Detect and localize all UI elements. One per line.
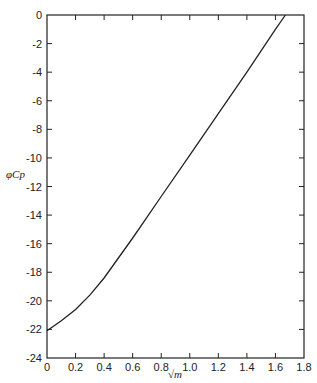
y-tick-label: -6 (32, 95, 42, 107)
x-tick-label: 0 (44, 361, 50, 373)
x-tick-label: 0.6 (125, 361, 140, 373)
y-axis-label: φCp (6, 168, 25, 180)
x-tick-label: 1.0 (182, 361, 197, 373)
x-tick-label: 0.8 (154, 361, 169, 373)
x-axis-ticks: 00.20.40.60.81.01.21.41.61.8 (44, 15, 312, 373)
y-tick-label: 0 (36, 9, 42, 21)
x-axis-label: √m (168, 368, 182, 380)
x-tick-label: 1.2 (211, 361, 226, 373)
y-tick-label: -18 (26, 266, 42, 278)
y-tick-label: -16 (26, 238, 42, 250)
x-tick-label: 1.6 (268, 361, 283, 373)
y-tick-label: -2 (32, 38, 42, 50)
x-tick-label: 0.2 (68, 361, 83, 373)
x-tick-label: 0.4 (96, 361, 111, 373)
y-tick-label: -24 (26, 352, 42, 364)
x-tick-label: 1.8 (296, 361, 311, 373)
y-tick-label: -22 (26, 323, 42, 335)
x-tick-label: 1.4 (239, 361, 254, 373)
y-axis-ticks: 0-2-4-6-8-10-12-14-16-18-20-22-24 (26, 9, 304, 364)
y-tick-label: -8 (32, 123, 42, 135)
y-tick-label: -20 (26, 295, 42, 307)
data-line (47, 15, 285, 331)
y-tick-label: -4 (32, 66, 42, 78)
y-tick-label: -14 (26, 209, 42, 221)
plot-frame (47, 15, 304, 358)
y-tick-label: -12 (26, 181, 42, 193)
y-tick-label: -10 (26, 152, 42, 164)
line-chart: 00.20.40.60.81.01.21.41.61.8 0-2-4-6-8-1… (0, 0, 317, 383)
